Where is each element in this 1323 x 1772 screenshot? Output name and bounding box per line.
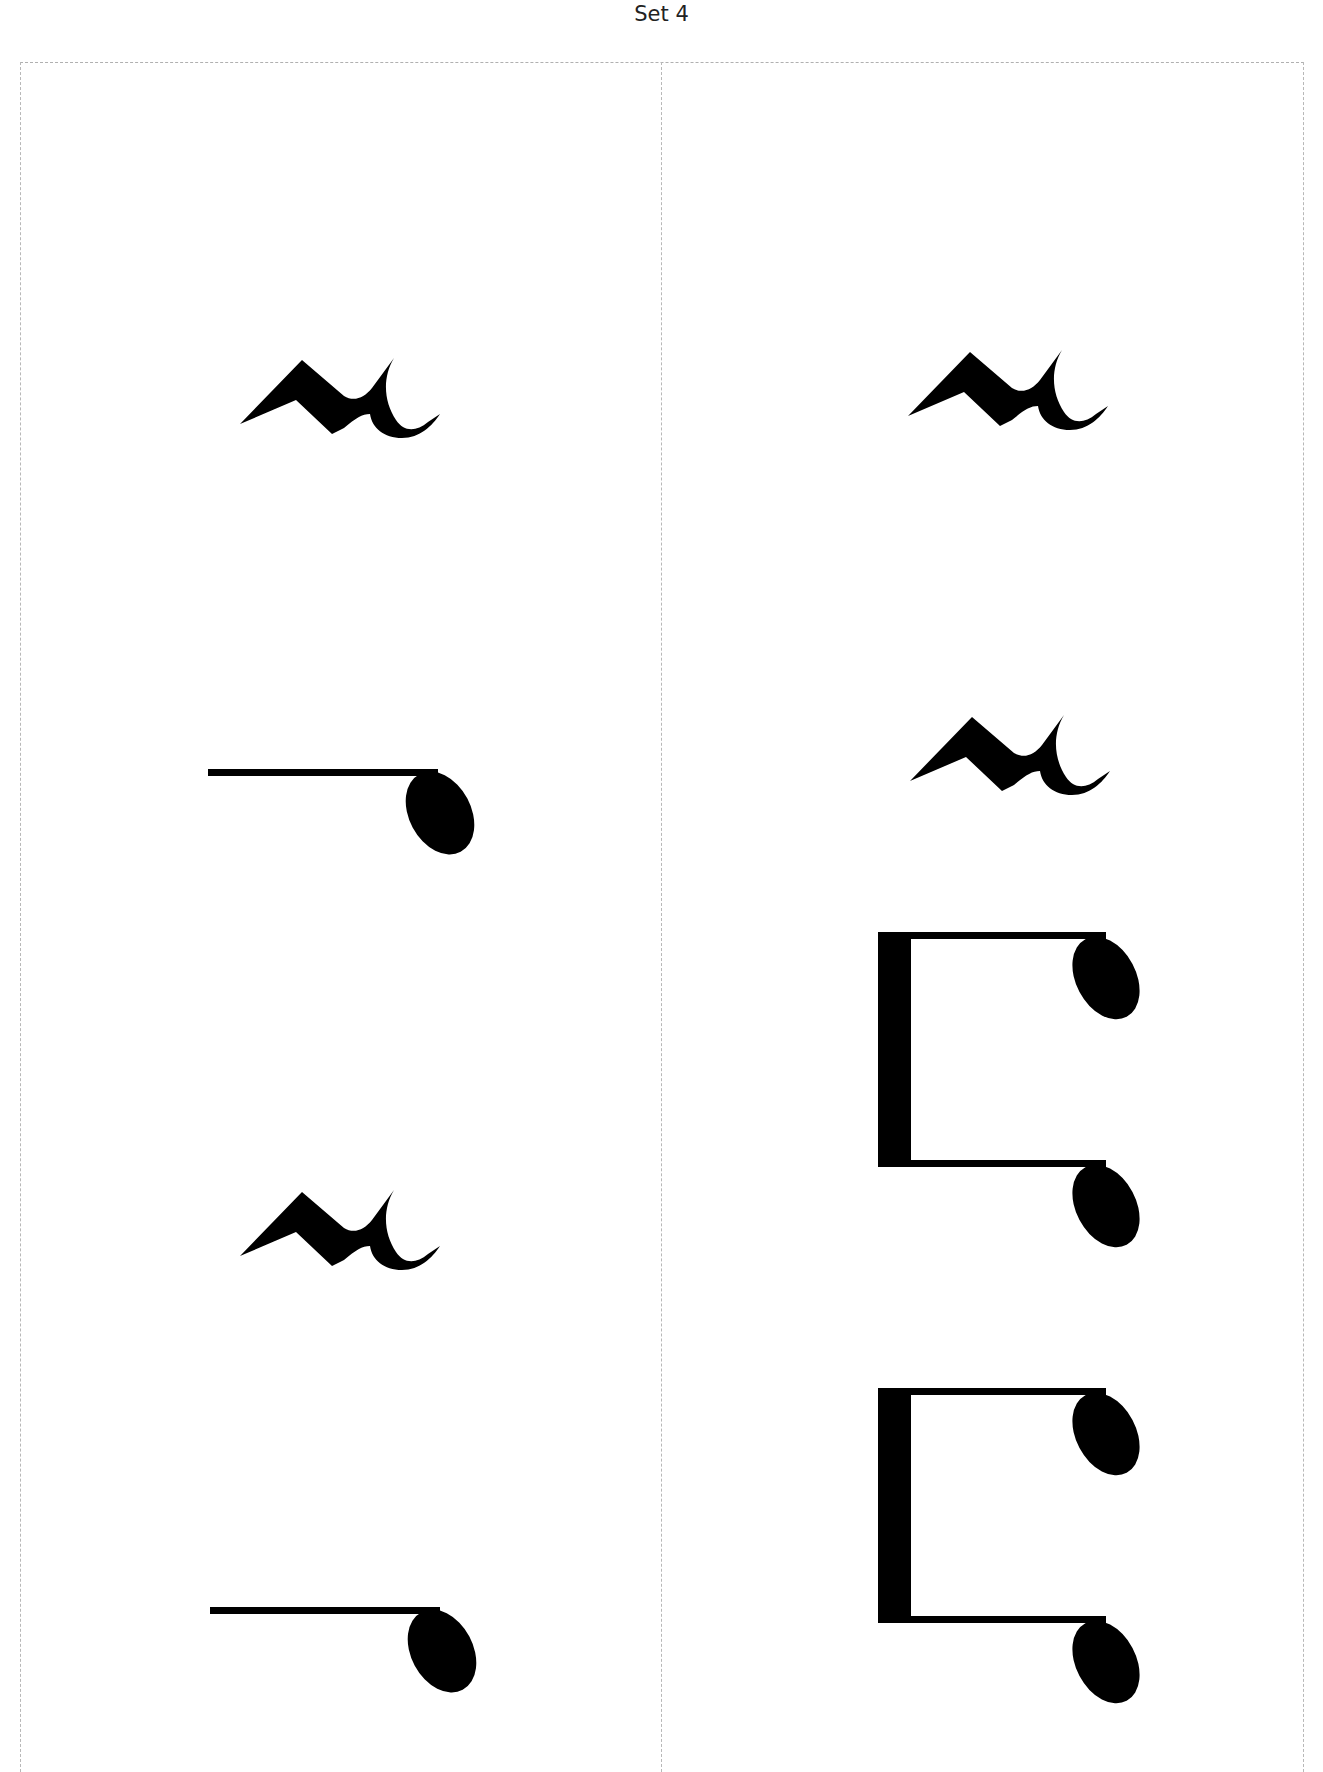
cut-line-right	[1303, 62, 1304, 1772]
cut-line-left	[20, 62, 21, 1772]
eighth-note-icon	[210, 1603, 480, 1698]
quarter-rest-icon	[236, 358, 442, 440]
quarter-rest-icon	[904, 350, 1110, 432]
cut-line-middle	[661, 62, 662, 1772]
quarter-rest-icon	[906, 715, 1112, 797]
eighth-note-icon	[208, 765, 478, 860]
beamed-eighth-notes-icon	[878, 932, 1148, 1252]
page-title: Set 4	[0, 2, 1323, 26]
cut-line-top	[20, 62, 1304, 63]
beamed-eighth-notes-icon	[878, 1388, 1148, 1708]
quarter-rest-icon	[236, 1190, 442, 1272]
